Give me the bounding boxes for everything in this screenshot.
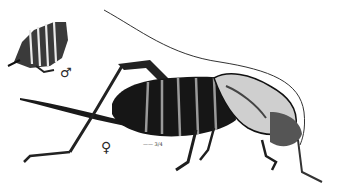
body xyxy=(112,74,302,146)
male-symbol: ♂ xyxy=(60,66,72,79)
female-symbol: ♀ xyxy=(101,140,111,154)
front-leg xyxy=(262,140,276,170)
illustration-canvas: ♂ ♀ —— 3/4 xyxy=(0,0,343,187)
scale-mark: —— 3/4 xyxy=(143,141,163,147)
male-abdomen-figure xyxy=(8,22,68,72)
palp-leg xyxy=(298,140,322,182)
cricket-drawing xyxy=(0,0,343,187)
